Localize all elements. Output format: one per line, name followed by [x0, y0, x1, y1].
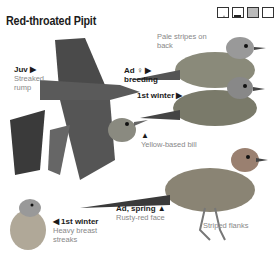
juv-flight-illustration: [10, 38, 140, 180]
striped-flanks-label: Striped flanks: [203, 221, 248, 230]
first-winter-right-label: 1st winter ▶: [137, 91, 182, 100]
first-winter-left-illustration: [10, 199, 46, 250]
ad-female-label: Ad ♀ ▶ breeding: [124, 66, 158, 84]
ad-spring-label: Ad, spring ▲ Rusty-red face: [116, 204, 166, 222]
juv-label: Juv ▶ Streaked rump: [14, 65, 44, 92]
yellow-bill-label: ▲ Yellow-based bill: [141, 131, 197, 149]
first-winter-left-label: ◀ 1st winter Heavy breast streaks: [53, 217, 98, 244]
pale-stripes-label: Pale stripes on back: [157, 32, 207, 50]
